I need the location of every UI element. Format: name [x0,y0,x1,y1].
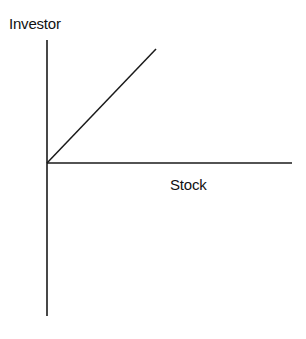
y-axis-label: Investor [9,15,61,32]
x-axis-label: Stock [170,176,207,193]
diagram-canvas [0,0,306,339]
diagonal-line [47,49,156,163]
